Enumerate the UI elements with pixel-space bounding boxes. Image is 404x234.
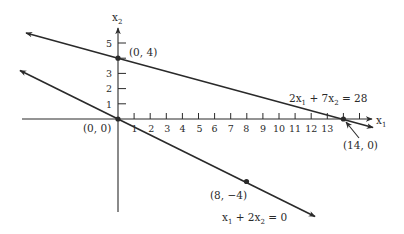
line-2x1-7x2-28-right <box>118 58 373 127</box>
y-tick-5: 5 <box>106 38 112 49</box>
point-14-0 <box>341 116 346 121</box>
x-tick-11: 11 <box>289 123 301 134</box>
y-tick-3: 3 <box>106 68 112 79</box>
equation-label-1: 2x1 + 7x2 = 28 <box>289 92 367 107</box>
x-tick-5: 5 <box>196 123 202 134</box>
x-tick-4: 4 <box>179 123 185 134</box>
x-tick-13: 13 <box>321 123 333 134</box>
x-tick-3: 3 <box>164 123 170 134</box>
x-tick-6: 6 <box>212 123 218 134</box>
y-tick-2: 2 <box>106 83 112 94</box>
x-tick-9: 9 <box>260 123 266 134</box>
label-8-neg4: (8, −4) <box>210 189 247 201</box>
x-tick-10: 10 <box>273 123 285 134</box>
line-x1-2x2-0 <box>20 71 118 120</box>
x-tick-8: 8 <box>243 123 249 134</box>
equation-label-2: x1 + 2x2 = 0 <box>222 211 287 226</box>
point-8-neg4 <box>244 179 249 184</box>
point-0-0 <box>115 116 120 121</box>
x-tick-7: 7 <box>228 123 234 134</box>
x-tick-2: 2 <box>148 123 154 134</box>
x1-axis-label: x1 <box>376 114 386 129</box>
label-0-0: (0, 0) <box>83 122 111 134</box>
x1-tick-labels: 1 2 3 4 5 6 7 8 9 10 11 12 13 <box>132 123 334 134</box>
x-tick-12: 12 <box>305 123 317 134</box>
line-2x1-7x2-28 <box>26 33 118 58</box>
point-0-4 <box>115 56 120 61</box>
pointer-arrow-14-0 <box>346 122 359 138</box>
diagram-canvas: 1 2 3 4 5 6 7 8 9 10 11 12 13 1 2 3 5 x2… <box>0 0 404 234</box>
y-tick-1: 1 <box>106 99 112 110</box>
label-0-4: (0, 4) <box>129 46 157 58</box>
x2-axis-label: x2 <box>112 11 122 26</box>
label-14-0: (14, 0) <box>343 139 378 151</box>
x2-ticks <box>118 43 126 104</box>
x2-tick-labels: 1 2 3 5 <box>106 38 112 110</box>
